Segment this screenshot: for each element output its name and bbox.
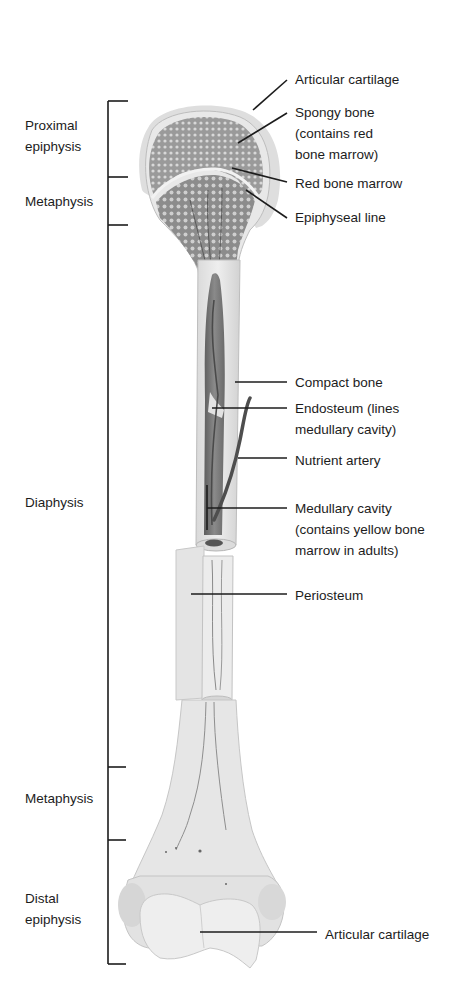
callout-articular-cartilage-bottom: Articular cartilage	[325, 924, 429, 945]
periosteum	[176, 546, 204, 700]
callout-epiphyseal-line: Epiphyseal line	[295, 207, 386, 228]
region-label-distal-metaphysis: Metaphysis	[25, 788, 93, 809]
region-label-diaphysis: Diaphysis	[25, 492, 84, 513]
region-label-proximal-metaphysis: Metaphysis	[25, 191, 93, 212]
callout-articular-cartilage-top: Articular cartilage	[295, 69, 399, 90]
callout-medullary-cavity: Medullary cavity (contains yellow bone m…	[295, 498, 425, 561]
region-label-proximal-epiphysis: Proximal epiphysis	[25, 115, 81, 157]
region-label-distal-epiphysis: Distal epiphysis	[25, 888, 81, 930]
region-bracket	[108, 101, 128, 964]
callout-red-bone-marrow: Red bone marrow	[295, 173, 402, 194]
callout-compact-bone: Compact bone	[295, 372, 383, 393]
callout-endosteum: Endosteum (lines medullary cavity)	[295, 398, 399, 440]
callout-nutrient-artery: Nutrient artery	[295, 450, 381, 471]
callout-periosteum: Periosteum	[295, 585, 363, 606]
callout-spongy-bone: Spongy bone (contains red bone marrow)	[295, 102, 378, 165]
